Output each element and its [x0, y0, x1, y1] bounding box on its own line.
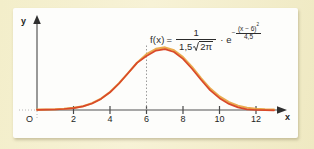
gaussian-curve: [37, 49, 274, 110]
square-root-icon: 2π: [193, 41, 213, 53]
exponent-numerator: (x − 6)2: [236, 25, 261, 33]
radicand: 2π: [199, 41, 213, 53]
gaussian-curve-shadow: [37, 47, 274, 109]
multiplication-dot: ·: [220, 35, 223, 45]
x-tick-label-6: 6: [140, 114, 154, 124]
y-axis-label: y: [21, 16, 26, 26]
exponent-numerator-text: (x − 6): [238, 25, 257, 32]
formula-denominator: 1,5 2π: [176, 40, 216, 53]
exponent-fraction: (x − 6)2 4,5: [236, 25, 261, 41]
formula-numerator: 1: [189, 28, 202, 39]
x-axis-label: x: [285, 112, 290, 122]
x-tick-label-10: 10: [213, 114, 227, 124]
x-tick-label-8: 8: [176, 114, 190, 124]
exponent-sign: −: [232, 30, 236, 37]
function-formula: f(x) = 1 1,5 2π · e − (x − 6)2: [150, 28, 232, 52]
x-tick-label-4: 4: [103, 114, 117, 124]
formula-equals: =: [167, 35, 173, 45]
x-tick-label-2: 2: [67, 114, 81, 124]
figure-root: y x O 2 4 6 8 10 12 f(x) = 1 1,5 2π: [0, 0, 314, 149]
origin-label: O: [26, 114, 33, 124]
exponent-denominator: 4,5: [242, 34, 255, 41]
formula-lhs: f(x): [150, 35, 165, 45]
denominator-coefficient: 1,5: [179, 42, 192, 52]
x-tick-label-12: 12: [249, 114, 263, 124]
formula-fraction: 1 1,5 2π: [176, 28, 216, 52]
y-axis-arrowhead: [33, 15, 41, 24]
exponent-group: − (x − 6)2 4,5: [232, 25, 261, 41]
radical-tick-icon: [193, 42, 199, 51]
euler-base: e − (x − 6)2 4,5: [226, 35, 231, 45]
exponent-power: 2: [257, 22, 260, 27]
